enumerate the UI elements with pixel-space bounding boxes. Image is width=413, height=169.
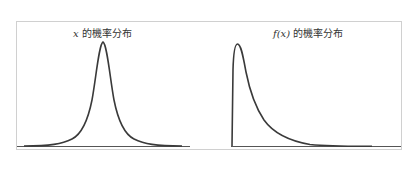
right-chart-title: f(x) 的機率分布	[273, 25, 343, 40]
right-title-variable: f(x)	[273, 28, 290, 39]
plot-area	[0, 0, 413, 169]
left-density-curve	[24, 42, 182, 146]
right-density-curve	[232, 44, 372, 146]
right-title-text: 的機率分布	[290, 28, 343, 39]
left-title-text: 的機率分布	[79, 28, 132, 39]
left-chart-title: x 的機率分布	[73, 25, 132, 40]
